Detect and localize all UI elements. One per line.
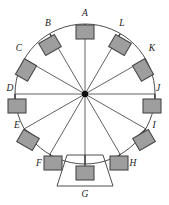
wheel-diagram: ABCDEFGHIJKL: [0, 0, 169, 205]
block-group-F[interactable]: [44, 156, 62, 170]
figure-root: ABCDEFGHIJKL: [0, 0, 169, 205]
center-hub[interactable]: [82, 91, 88, 97]
block-group-J[interactable]: [143, 99, 161, 113]
block-F[interactable]: [44, 156, 62, 170]
block-group-H[interactable]: [110, 156, 128, 170]
label-D: D: [6, 83, 14, 93]
hub-layer: [82, 91, 88, 97]
label-H: H: [129, 158, 138, 168]
block-A[interactable]: [76, 25, 94, 39]
block-group-G[interactable]: [76, 166, 94, 180]
block-H[interactable]: [110, 156, 128, 170]
block-group-A[interactable]: [76, 25, 94, 39]
label-G: G: [82, 189, 89, 199]
label-K: K: [148, 43, 156, 53]
block-J[interactable]: [143, 99, 161, 113]
label-B: B: [45, 18, 51, 28]
block-D[interactable]: [8, 99, 26, 113]
label-C: C: [16, 43, 23, 53]
label-A: A: [81, 8, 88, 18]
block-G[interactable]: [76, 166, 94, 180]
label-E: E: [13, 120, 20, 130]
label-L: L: [118, 18, 124, 28]
block-group-D[interactable]: [8, 99, 26, 113]
label-F: F: [35, 158, 42, 168]
